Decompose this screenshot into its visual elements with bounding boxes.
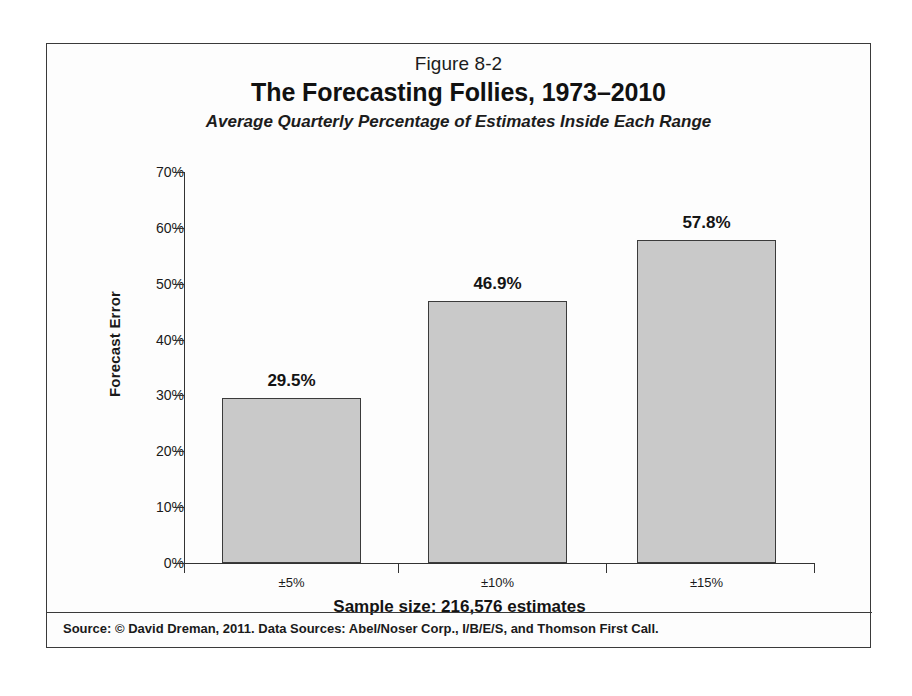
bar-category-2[interactable]	[428, 301, 567, 563]
y-tick-mark	[175, 451, 184, 452]
bar-category-1[interactable]	[222, 398, 361, 563]
figure-frame: Figure 8-2 The Forecasting Follies, 1973…	[46, 43, 871, 648]
y-tick-mark	[175, 507, 184, 508]
plot-region: Forecast Error 70% 60% 50% 40% 30% 20%	[47, 44, 872, 649]
bar-value-label-3: 57.8%	[637, 213, 776, 233]
bar-category-3[interactable]	[637, 240, 776, 563]
x-tick-mark	[814, 563, 815, 573]
bar-value-label-2: 46.9%	[428, 274, 567, 294]
source-note: Source: © David Dreman, 2011. Data Sourc…	[63, 621, 659, 636]
x-tick-mark	[184, 563, 185, 573]
x-axis-category-label-2: ±10%	[428, 575, 567, 590]
bar-value-label-1: 29.5%	[222, 371, 361, 391]
x-tick-mark	[606, 563, 607, 573]
y-axis-title: Forecast Error	[106, 244, 123, 444]
y-tick-mark	[175, 172, 184, 173]
y-tick-mark	[175, 395, 184, 396]
x-axis-title: Sample size: 216,576 estimates	[47, 597, 872, 617]
y-tick-mark	[175, 563, 184, 564]
x-tick-mark	[398, 563, 399, 573]
y-tick-mark	[175, 284, 184, 285]
x-axis-category-label-1: ±5%	[222, 575, 361, 590]
y-tick-mark	[175, 340, 184, 341]
y-tick-mark	[175, 228, 184, 229]
source-divider	[47, 612, 872, 613]
y-axis-line	[184, 172, 185, 564]
x-axis-category-label-3: ±15%	[637, 575, 776, 590]
x-axis-line	[184, 563, 814, 564]
